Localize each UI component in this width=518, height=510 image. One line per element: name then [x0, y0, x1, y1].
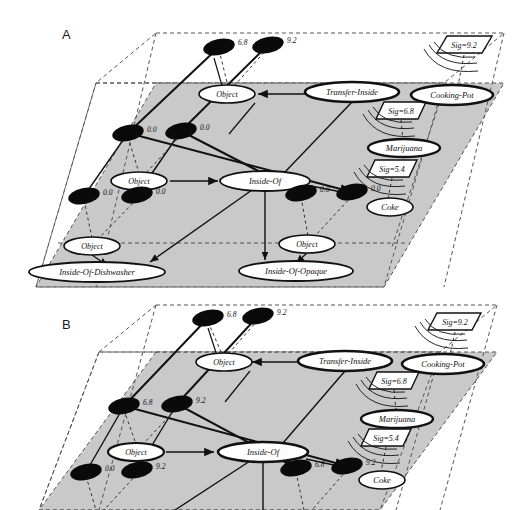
activation-value: 6.8 — [315, 460, 325, 469]
concept-node-b-cooking-pot[interactable]: Cooking-Pot — [402, 354, 484, 374]
concept-node-b-transfer-inside[interactable]: Transfer-Inside — [298, 351, 392, 371]
concept-label: Object — [125, 448, 147, 457]
concept-node-b-object-2[interactable]: Object — [108, 443, 164, 461]
activation-value: 0.0 — [320, 185, 330, 194]
concept-node-a-inside-of-dishwasher[interactable]: Inside-Of-Dishwasher — [29, 262, 165, 282]
concept-node-a-coke[interactable]: Coke — [367, 198, 413, 216]
concept-label: Object — [213, 358, 235, 367]
activation-node-b-top-2[interactable]: 9.2 — [241, 305, 287, 327]
concept-node-b-marijuana[interactable]: Marijuana — [361, 410, 433, 428]
concept-node-a-marijuana[interactable]: Marijuana — [368, 139, 440, 157]
signal-label: Sig=5.4 — [379, 165, 405, 174]
signal-label: Sig=6.8 — [388, 107, 414, 116]
concept-node-b-object-1[interactable]: Object — [196, 353, 252, 371]
concept-node-a-cooking-pot[interactable]: Cooking-Pot — [411, 85, 493, 105]
panel-a: A — [0, 0, 518, 300]
activation-node-a-top-1[interactable]: 6.8 — [202, 36, 248, 58]
activation-value: 9.2 — [366, 458, 376, 467]
concept-label: Coke — [381, 202, 399, 212]
activation-value: 0.0 — [200, 123, 210, 132]
panel-b: B — [0, 295, 518, 510]
concept-node-a-object-4[interactable]: Object — [279, 235, 335, 253]
panel-b-diagram-main: Sig=9.2 Sig=6.8 Sig=5.4 — [0, 295, 518, 510]
signal-label: Sig=9.2 — [451, 41, 477, 50]
concept-label: Object — [81, 242, 103, 251]
concept-node-a-object-1[interactable]: Object — [199, 85, 255, 103]
activation-value: 6.8 — [227, 310, 237, 319]
concept-label: Inside-Of-Dishwasher — [58, 267, 135, 277]
concept-label: Marijuana — [378, 414, 415, 424]
signal-label: Sig=6.8 — [381, 377, 407, 386]
activation-node-b-top-1[interactable]: 6.8 — [191, 307, 237, 329]
activation-value: 0.0 — [105, 464, 115, 473]
concept-label: Cooking-Pot — [430, 90, 474, 100]
activation-value: 9.2 — [287, 36, 297, 45]
panel-a-diagram: Sig=9.2 Sig=6.8 Sig=5.4 — [0, 0, 518, 300]
concept-label: Cooking-Pot — [421, 359, 465, 369]
signal-box-b-1: Sig=9.2 — [415, 313, 481, 349]
plane-middle-b — [39, 352, 497, 510]
signal-label: Sig=9.2 — [442, 318, 468, 327]
signal-label: Sig=5.4 — [373, 434, 399, 443]
activation-node-a-top-2[interactable]: 9.2 — [251, 34, 297, 56]
activation-value: 0.0 — [156, 187, 166, 196]
concept-label: Transfer-Inside — [326, 87, 378, 97]
concept-label: Coke — [373, 475, 391, 485]
activation-value: 6.8 — [143, 398, 153, 407]
concept-node-a-transfer-inside[interactable]: Transfer-Inside — [305, 82, 399, 102]
concept-label: Object — [128, 177, 150, 186]
activation-value: 9.2 — [277, 308, 287, 317]
concept-label: Inside-Of — [246, 447, 281, 457]
concept-node-a-inside-of-opaque[interactable]: Inside-Of-Opaque — [239, 261, 353, 281]
activation-value: 0.0 — [147, 125, 157, 134]
concept-label: Inside-Of-Opaque — [264, 266, 327, 276]
signal-box-a-1: Sig=9.2 — [424, 36, 492, 72]
concept-node-a-object-3[interactable]: Object — [64, 237, 120, 255]
concept-label: Marijuana — [385, 143, 422, 153]
concept-node-b-inside-of[interactable]: Inside-Of — [218, 442, 308, 462]
activation-value: 9.2 — [156, 462, 166, 471]
concept-label: Inside-Of — [248, 176, 283, 186]
concept-label: Object — [216, 90, 238, 99]
concept-label: Object — [296, 240, 318, 249]
activation-value: 9.2 — [196, 396, 206, 405]
activation-value: 6.8 — [238, 38, 248, 47]
activation-value: 0.0 — [103, 188, 113, 197]
activation-value: 0.0 — [371, 184, 381, 193]
concept-label: Transfer-Inside — [319, 356, 371, 366]
concept-node-b-coke[interactable]: Coke — [359, 471, 405, 489]
